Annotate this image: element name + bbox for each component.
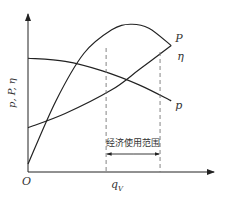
chart: 经济使用范围 O q V p, P, η ηPp xyxy=(0,0,230,203)
x-axis-label-sub: V xyxy=(118,185,124,193)
range-label: 经济使用范围 xyxy=(106,137,160,148)
x-axis-label: q xyxy=(111,178,118,191)
origin-label: O xyxy=(22,175,31,188)
series-label-0: η xyxy=(177,50,184,63)
y-axis-label: p, P, η xyxy=(6,78,17,108)
series-line-2 xyxy=(28,58,171,101)
series-label-1: P xyxy=(174,32,183,45)
series-label-2: p xyxy=(175,99,182,112)
